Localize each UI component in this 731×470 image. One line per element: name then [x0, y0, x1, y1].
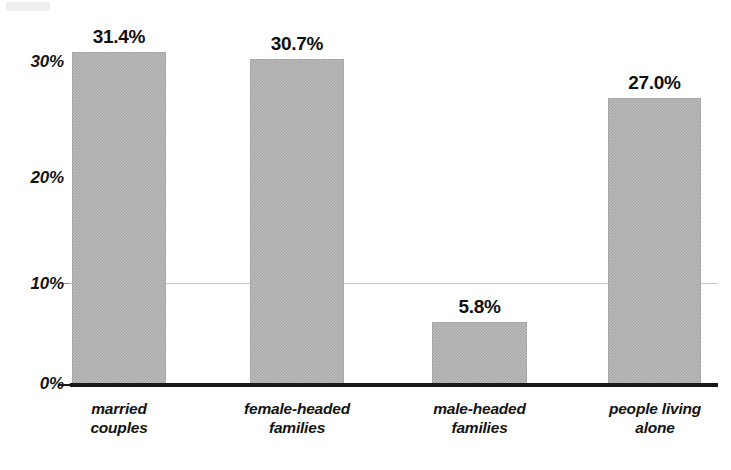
tick-stub-0: [58, 384, 70, 386]
value-label-male-headed-families: 5.8%: [432, 297, 527, 316]
category-label-married-couples: married couples: [49, 399, 189, 438]
category-line2: couples: [49, 418, 189, 437]
value-label-female-headed-families: 30.7%: [250, 34, 344, 53]
bar-male-headed-families[interactable]: [432, 322, 527, 383]
bar-female-headed-families[interactable]: [250, 59, 344, 383]
category-label-male-headed-families: male-headed families: [407, 399, 552, 438]
bar-chart: 30% 20% 10% 0% 31.4% 30.7% 5.8% 27.0% ma…: [0, 0, 731, 470]
x-axis-baseline: [70, 383, 718, 387]
category-line1: married: [91, 400, 146, 417]
category-label-female-headed-families: female-headed families: [222, 399, 372, 438]
y-tick-label-30: 30%: [8, 53, 64, 70]
y-tick-label-0: 0%: [8, 375, 64, 392]
category-line1: people living: [609, 400, 701, 417]
category-line2: families: [222, 418, 372, 437]
plot-area: 30% 20% 10% 0% 31.4% 30.7% 5.8% 27.0% ma…: [0, 0, 731, 470]
category-line1: male-headed: [433, 400, 526, 417]
y-tick-label-20: 20%: [8, 169, 64, 186]
value-label-people-living-alone: 27.0%: [608, 73, 701, 92]
category-line1: female-headed: [244, 400, 350, 417]
category-line2: families: [407, 418, 552, 437]
value-label-married-couples: 31.4%: [72, 27, 166, 46]
bar-married-couples[interactable]: [72, 52, 166, 383]
bar-people-living-alone[interactable]: [608, 98, 701, 383]
category-label-people-living-alone: people living alone: [585, 399, 725, 438]
y-tick-label-10: 10%: [8, 275, 64, 292]
category-line2: alone: [585, 418, 725, 437]
